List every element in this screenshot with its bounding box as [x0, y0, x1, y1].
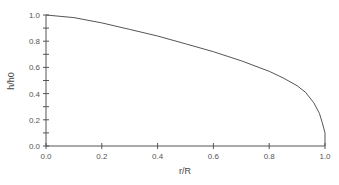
x-tick-label: 1.0 [319, 152, 331, 161]
x-tick-label: 0.0 [40, 152, 52, 161]
x-axis-label: r/R [179, 166, 191, 176]
axes: 0.00.20.40.60.81.0 0.00.20.40.60.81.0 [29, 11, 331, 161]
y-tick-label: 0.0 [29, 142, 41, 151]
data-line [46, 15, 325, 146]
chart: 0.00.20.40.60.81.0 0.00.20.40.60.81.0 r/… [0, 0, 339, 185]
x-tick-label: 0.4 [152, 152, 164, 161]
y-tick-label: 0.4 [29, 90, 41, 99]
x-tick-label: 0.2 [96, 152, 108, 161]
x-tick-label: 0.6 [208, 152, 220, 161]
y-tick-label: 0.6 [29, 63, 41, 72]
x-tick-label: 0.8 [264, 152, 276, 161]
y-tick-label: 0.8 [29, 37, 41, 46]
y-axis-label: h/h0 [6, 72, 16, 90]
y-tick-label: 0.2 [29, 116, 41, 125]
y-tick-label: 1.0 [29, 11, 41, 20]
